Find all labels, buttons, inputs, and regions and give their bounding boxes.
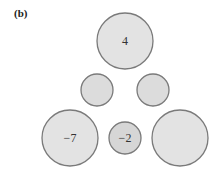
circle-top-value: 4	[122, 34, 128, 48]
circle-bottom-left: −7	[42, 110, 98, 166]
circle-diagram: 4 −7 −2	[0, 0, 219, 179]
circle-bottom-middle: −2	[109, 122, 141, 154]
circle-bottom-right	[152, 110, 208, 166]
circle-top: 4	[97, 13, 153, 69]
circle-middle-right	[137, 74, 169, 106]
circle-middle-left	[81, 74, 113, 106]
circle-bottom-middle-value: −2	[119, 131, 132, 145]
circle-bottom-left-value: −7	[64, 131, 77, 145]
